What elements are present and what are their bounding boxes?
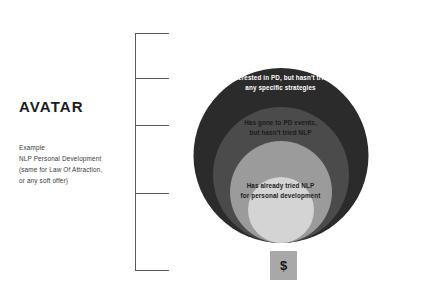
bracket-spine	[135, 33, 136, 271]
diagram-canvas: AVATAR Example NLP Personal Development …	[0, 0, 427, 291]
bracket-tick	[135, 33, 169, 34]
bracket-tick	[135, 125, 169, 126]
dollar-sign-icon: $	[280, 259, 287, 272]
avatar-description: Example NLP Personal Development (same f…	[19, 116, 129, 186]
nested-circles-diagram: Curious about personal development Inter…	[193, 19, 368, 243]
circle-label-level-1: Curious about personal development	[223, 31, 338, 41]
circle-level-4	[248, 177, 314, 243]
avatar-description-line: Example	[19, 142, 129, 153]
page-title: AVATAR	[19, 99, 129, 116]
circle-label-line: Curious about personal development	[223, 31, 338, 41]
avatar-text-block: AVATAR Example NLP Personal Development …	[19, 99, 129, 186]
bracket-tick	[135, 270, 169, 271]
bracket-tick	[135, 78, 169, 79]
avatar-description-line: or any soft offer)	[19, 175, 129, 186]
avatar-description-line: NLP Personal Development	[19, 153, 129, 164]
money-box: $	[270, 251, 297, 280]
bracket-scale	[135, 33, 169, 271]
avatar-description-line: (same for Law Of Attraction,	[19, 164, 129, 175]
bracket-tick	[135, 193, 169, 194]
